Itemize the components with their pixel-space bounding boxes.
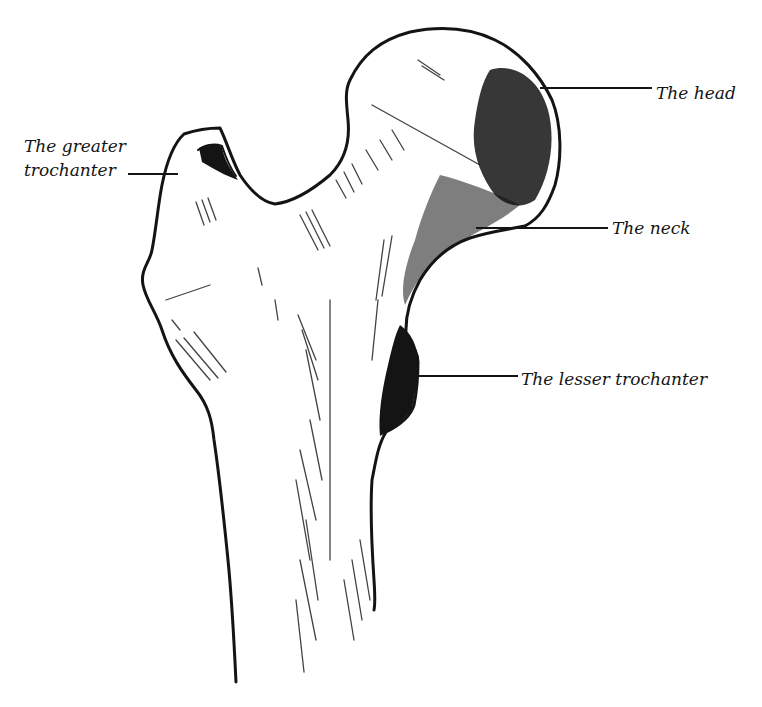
label-head: The head bbox=[656, 81, 736, 105]
femur-illustration bbox=[0, 0, 762, 707]
femur-diagram: The greater trochanter The head The neck… bbox=[0, 0, 762, 707]
label-neck: The neck bbox=[612, 216, 691, 240]
leader-lines bbox=[128, 88, 652, 376]
label-greater-trochanter-line2: trochanter bbox=[24, 158, 126, 182]
label-greater-trochanter: The greater trochanter bbox=[24, 134, 126, 182]
label-lesser-trochanter: The lesser trochanter bbox=[521, 367, 707, 391]
label-greater-trochanter-line1: The greater bbox=[24, 134, 126, 158]
